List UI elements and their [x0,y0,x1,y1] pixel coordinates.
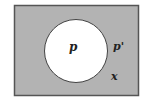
complement-label: p' [113,40,124,53]
venn-diagram: p p' x [0,0,147,102]
element-x-label: x [110,70,118,83]
set-p-label: p [69,40,78,54]
